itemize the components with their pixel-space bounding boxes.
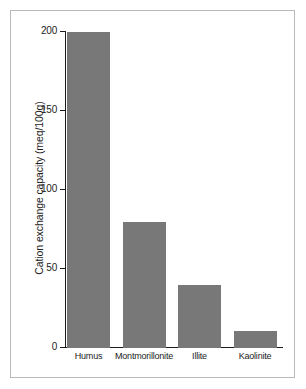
bar [67, 32, 110, 348]
x-axis-category-label: Kaolinite [195, 351, 306, 362]
bar [234, 331, 277, 348]
bar-chart: Cation exchange capacity (meq/100g) 0501… [0, 0, 306, 389]
bar [123, 222, 166, 348]
bar [178, 285, 221, 348]
bars-layer [0, 0, 306, 348]
